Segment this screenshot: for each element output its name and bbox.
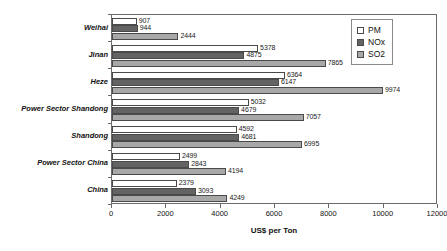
bar-so2-power-sector-china: [112, 168, 226, 175]
bar-value-label: 4679: [241, 106, 256, 113]
x-axis-tick-label: 4000: [211, 209, 228, 218]
bar-value-label: 3093: [198, 187, 213, 194]
y-axis-category-label: Heze: [0, 77, 108, 86]
x-axis-tick: [383, 204, 384, 208]
legend-label: PM: [368, 25, 381, 35]
x-axis-tick-label: 6000: [266, 209, 283, 218]
bar-value-label: 2499: [182, 152, 197, 159]
bar-value-label: 944: [140, 24, 151, 31]
bar-value-label: 5032: [251, 98, 266, 105]
bar-pm-power-sector-shandong: [112, 99, 249, 106]
bar-value-label: 2379: [179, 179, 194, 186]
bar-pm-weihai: [112, 18, 137, 25]
bar-nox-weihai: [112, 25, 138, 32]
x-axis-tick: [437, 204, 438, 208]
bar-value-label: 4249: [229, 194, 244, 201]
bar-value-label: 7057: [306, 113, 321, 120]
y-axis-category-label: Jinan: [0, 50, 108, 59]
bar-so2-jinan: [112, 60, 326, 67]
x-axis-tick: [111, 204, 112, 208]
bar-value-label: 4592: [239, 125, 254, 132]
x-axis-tick: [220, 204, 221, 208]
x-axis-tick-labels: 020004000600080001000012000: [111, 209, 437, 221]
legend-swatch-pm-icon: [357, 27, 364, 34]
x-axis-tick-label: 0: [109, 209, 113, 218]
bar-nox-shandong: [112, 134, 239, 141]
bar-so2-power-sector-shandong: [112, 114, 304, 121]
x-axis-tick-label: 2000: [157, 209, 174, 218]
legend-swatch-nox-icon: [357, 39, 364, 46]
y-axis-category-label: Weihai: [0, 23, 108, 32]
chart-legend: PMNOxSO2: [351, 19, 393, 65]
x-axis-tick-label: 12000: [427, 209, 447, 218]
bar-pm-jinan: [112, 45, 258, 52]
x-axis-tick: [274, 204, 275, 208]
bar-value-label: 7865: [328, 59, 343, 66]
bar-value-label: 9974: [385, 86, 400, 93]
bar-pm-heze: [112, 72, 285, 79]
bar-pm-power-sector-china: [112, 153, 180, 160]
legend-label: NOx: [368, 37, 385, 47]
legend-item-so2: SO2: [357, 48, 385, 60]
x-axis-tick-label: 8000: [320, 209, 337, 218]
bar-value-label: 5378: [260, 44, 275, 51]
bar-so2-china: [112, 195, 227, 202]
x-axis-tick: [165, 204, 166, 208]
legend-item-nox: NOx: [357, 36, 385, 48]
bar-nox-power-sector-shandong: [112, 107, 239, 114]
bar-nox-heze: [112, 79, 279, 86]
bar-pm-shandong: [112, 126, 237, 133]
bar-pm-china: [112, 180, 177, 187]
x-axis-tick-label: 10000: [372, 209, 393, 218]
y-axis-category-label: Shandong: [0, 131, 108, 140]
bar-nox-jinan: [112, 52, 244, 59]
bar-so2-weihai: [112, 33, 178, 40]
bar-value-label: 4875: [246, 51, 261, 58]
legend-swatch-so2-icon: [357, 51, 364, 58]
bar-value-label: 2444: [180, 32, 195, 39]
y-axis-category-label: China: [0, 185, 108, 194]
bar-value-label: 4681: [241, 133, 256, 140]
bar-value-label: 907: [139, 17, 150, 24]
bar-value-label: 4194: [228, 167, 243, 174]
bar-value-label: 2843: [191, 160, 206, 167]
bar-so2-heze: [112, 87, 383, 94]
bar-value-label: 6147: [281, 78, 296, 85]
x-axis-tick: [328, 204, 329, 208]
bar-nox-power-sector-china: [112, 161, 189, 168]
bar-value-label: 6995: [304, 140, 319, 147]
legend-label: SO2: [368, 49, 385, 59]
y-axis-labels: WeihaiJinanHezePower Sector ShandongShan…: [0, 14, 108, 204]
bar-value-label: 6364: [287, 71, 302, 78]
y-axis-category-label: Power Sector China: [0, 158, 108, 167]
x-axis-ticks: [111, 204, 437, 208]
legend-item-pm: PM: [357, 24, 385, 36]
bar-nox-china: [112, 188, 196, 195]
y-axis-category-label: Power Sector Shandong: [0, 104, 108, 113]
x-axis-title: US$ per Ton: [111, 226, 437, 235]
bar-so2-shandong: [112, 141, 302, 148]
